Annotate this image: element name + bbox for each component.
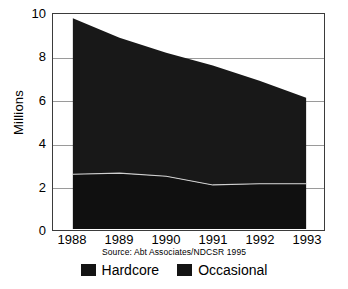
- legend-swatch-icon: [177, 264, 192, 276]
- chart-legend: Hardcore Occasional: [0, 263, 348, 277]
- legend-label: Hardcore: [102, 263, 160, 277]
- legend-swatch-icon: [81, 264, 96, 276]
- legend-item-occasional: Occasional: [177, 263, 267, 277]
- x-tick-label: 1990: [144, 233, 188, 247]
- legend-label: Occasional: [198, 263, 267, 277]
- y-tick-label: 2: [20, 181, 46, 194]
- x-tick-label: 1991: [191, 233, 235, 247]
- area-series-group: [73, 18, 306, 229]
- x-tick-label: 1989: [97, 233, 141, 247]
- x-tick-label: 1988: [50, 233, 94, 247]
- source-note: Source: Abt Associates/NDCSR 1995: [0, 247, 348, 257]
- legend-item-hardcore: Hardcore: [81, 263, 160, 277]
- plot-area: [52, 13, 325, 231]
- area-occasional: [73, 18, 306, 185]
- y-tick-label: 8: [20, 50, 46, 63]
- y-tick-label: 10: [20, 7, 46, 20]
- chart-figure: Millions 10 8 6 4 2 0 1988 1989 1990 199…: [0, 0, 348, 289]
- stacked-area-plot: [53, 14, 324, 230]
- y-tick-label: 4: [20, 137, 46, 150]
- y-tick-label: 6: [20, 94, 46, 107]
- x-tick-label: 1993: [285, 233, 329, 247]
- x-tick-label: 1992: [238, 233, 282, 247]
